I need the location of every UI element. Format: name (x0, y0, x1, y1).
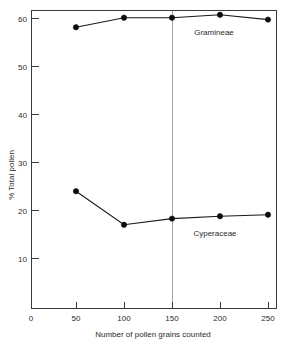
y-tick-label-10: 10 (18, 255, 27, 264)
series-cyperaceae-point-150 (169, 216, 174, 221)
x-tick-label-100: 100 (117, 314, 131, 323)
series-gramineae-label: Gramineae (194, 28, 234, 37)
series-cyperaceae-point-100 (121, 222, 126, 227)
y-tick-label-40: 40 (18, 111, 27, 120)
series-cyperaceae-label: Cyperaceae (193, 229, 237, 238)
y-tick-label-60: 60 (18, 15, 27, 24)
y-tick-label-20: 20 (18, 207, 27, 216)
x-axis-title: Number of pollen grains counted (95, 330, 211, 339)
series-cyperaceae-point-200 (217, 214, 222, 219)
y-tick-label-30: 30 (18, 159, 27, 168)
series-gramineae-point-50 (73, 25, 78, 30)
series-gramineae-point-200 (217, 12, 222, 17)
series-gramineae-point-150 (169, 15, 174, 20)
x-tick-label-0: 0 (29, 314, 34, 323)
y-axis-title: % Total pollen (7, 150, 16, 200)
chart-canvas: 60 50 40 30 20 10 0 50 100 150 200 250 N… (0, 0, 287, 342)
x-tick-label-250: 250 (261, 314, 275, 323)
series-gramineae-point-100 (121, 15, 126, 20)
x-tick-label-200: 200 (213, 314, 227, 323)
series-cyperaceae-point-250 (265, 212, 270, 217)
x-tick-label-50: 50 (72, 314, 81, 323)
y-tick-label-50: 50 (18, 63, 27, 72)
series-cyperaceae-point-50 (73, 189, 78, 194)
x-tick-label-150: 150 (165, 314, 179, 323)
chart-background (0, 0, 287, 342)
series-gramineae-point-250 (265, 17, 270, 22)
pollen-percentage-line-chart: 60 50 40 30 20 10 0 50 100 150 200 250 N… (0, 0, 287, 342)
